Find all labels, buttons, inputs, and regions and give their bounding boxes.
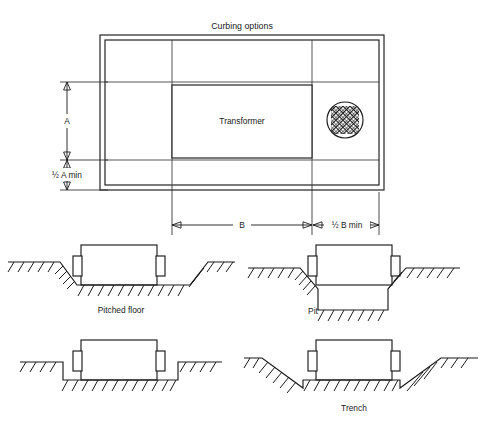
dim-label-half-b: ½ B min <box>332 220 363 230</box>
dim-label-half-a: ½ A min <box>52 170 82 180</box>
flat-pad-right-bushing <box>156 351 165 371</box>
flat-pad-transformer-body <box>81 340 157 380</box>
pitched-floor-transformer-body <box>81 245 157 285</box>
trench-right-bushing <box>391 351 400 371</box>
dim-label-b: B <box>239 220 245 230</box>
transformer-label: Transformer <box>219 116 265 126</box>
trench-label: Trench <box>341 403 367 413</box>
pit-left-bushing <box>308 256 317 276</box>
trench-transformer-body <box>316 340 392 380</box>
pitched-floor-right-bushing <box>156 256 165 276</box>
pitched-floor-label: Pitched floor <box>98 305 145 315</box>
dim-label-a: A <box>64 116 70 126</box>
pit-right-bushing <box>391 256 400 276</box>
diagram-canvas: Curbing options Transformer A <box>0 0 484 435</box>
trench-left-bushing <box>308 351 317 371</box>
pit-label: Pit <box>308 306 318 316</box>
pitched-floor-left-bushing <box>73 256 82 276</box>
drain-hatch-icon <box>331 106 359 134</box>
figure-title: Curbing options <box>211 21 273 31</box>
flat-pad-left-bushing <box>73 351 82 371</box>
pit-transformer-body <box>316 245 392 285</box>
curbing-options-figure: Curbing options Transformer A <box>0 0 484 435</box>
